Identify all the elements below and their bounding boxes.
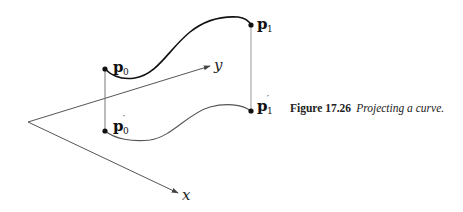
point-p0 xyxy=(102,66,107,71)
point-p0-prime xyxy=(102,128,107,133)
svg-text:1: 1 xyxy=(267,106,273,116)
point-p1-prime xyxy=(248,108,253,113)
figure-caption: Figure 17.26Projecting a curve. xyxy=(290,102,444,114)
svg-text:0: 0 xyxy=(123,67,129,77)
x-axis-label: x xyxy=(182,186,191,204)
figure-number: Figure 17.26 xyxy=(290,102,351,114)
y-axis-label: y xyxy=(213,56,223,74)
label-p0-prime: p ′ 0 xyxy=(113,114,129,136)
point-p1 xyxy=(248,22,253,27)
svg-text:0: 0 xyxy=(123,126,129,136)
svg-text:′: ′ xyxy=(267,94,269,104)
label-p1: p 1 xyxy=(257,15,273,34)
projection-figure: y x p 0 p ′ 0 p 1 p ′ 1 xyxy=(0,0,463,212)
svg-text:′: ′ xyxy=(123,114,125,124)
label-p1-prime: p ′ 1 xyxy=(257,94,273,116)
svg-text:p: p xyxy=(113,58,124,76)
svg-text:p: p xyxy=(257,97,268,115)
label-p0: p 0 xyxy=(113,58,129,77)
caption-text: Projecting a curve. xyxy=(356,102,444,114)
svg-text:p: p xyxy=(257,15,268,33)
svg-text:1: 1 xyxy=(267,24,273,34)
svg-text:p: p xyxy=(113,117,124,135)
